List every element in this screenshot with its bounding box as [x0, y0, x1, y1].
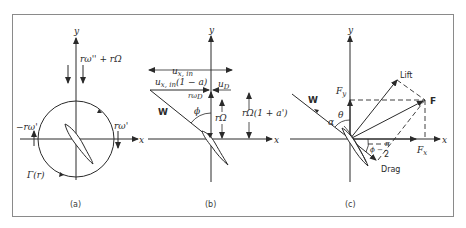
resultant-force-label: F: [430, 96, 436, 106]
airfoil-b: [202, 131, 228, 165]
caption-b: (b): [205, 200, 216, 209]
f-y-label: Fy: [335, 86, 347, 98]
phi-minus-arc: [366, 139, 368, 152]
airfoil-a: [65, 124, 93, 164]
figure-frame: [13, 15, 454, 217]
pi-denominator: 2: [384, 150, 389, 159]
top-velocity-label: rω'' + rΩ: [80, 54, 122, 64]
theta-label: θ: [338, 110, 344, 120]
airfoil-c: [342, 128, 368, 166]
u-d-label: uD: [218, 79, 230, 91]
lift-arrow: [350, 80, 397, 139]
x-axis-label-a: x: [139, 135, 144, 145]
f-x-label: Fx: [416, 145, 427, 157]
circle-arrow-bottom: [59, 172, 64, 177]
x-axis-label-c: x: [442, 135, 447, 145]
lift-label: Lift: [400, 71, 413, 80]
relative-velocity-label-c: W: [308, 95, 318, 105]
circulation-label: Γ(r): [26, 170, 45, 180]
y-axis-label-c: y: [347, 25, 354, 35]
y-axis-label-b: y: [208, 25, 215, 35]
pi-numerator: π: [384, 140, 390, 148]
r-omega-label: rΩ: [215, 113, 227, 123]
phi-minus-label: ϕ −: [370, 146, 383, 154]
r-omega-total-label: rΩ(1 + a'): [242, 108, 288, 118]
drag-label: Drag: [381, 165, 400, 174]
r-omega-d-label: rωD: [188, 92, 203, 101]
u-in-reduced-label: ux, in(1 − a): [155, 77, 208, 89]
resultant-force-arrow: [350, 101, 423, 139]
panel-b: x y ux, in ux, in(1 − a) uD rωD W ϕ rΩ r…: [148, 25, 288, 209]
x-axis-label-b: x: [274, 135, 279, 145]
panel-a: x y rω'' + rΩ −rω' rω' Γ(r) (a): [16, 26, 144, 209]
relative-velocity-label: W: [158, 107, 168, 117]
caption-a: (a): [70, 200, 81, 209]
phi-label: ϕ: [194, 106, 200, 116]
panel-c: x y W θ α Fy Lift F Fx Drag ϕ: [290, 25, 447, 209]
theta-arc: [335, 120, 350, 127]
caption-c: (c): [345, 200, 356, 209]
lift-to-f-dash: [397, 80, 425, 100]
blade-element-diagram: x y rω'' + rΩ −rω' rω' Γ(r) (a) x y ux, …: [0, 0, 466, 228]
alpha-label: α: [328, 117, 334, 127]
y-axis-label-a: y: [73, 26, 80, 36]
right-velocity-label: rω': [114, 121, 128, 131]
left-velocity-label: −rω': [16, 122, 38, 132]
